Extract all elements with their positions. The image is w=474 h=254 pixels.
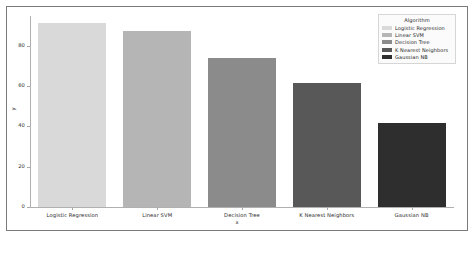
x-tick-label: Gaussian NB (369, 212, 454, 218)
legend-item: K Nearest Neighbors (382, 46, 452, 53)
legend-items: Logistic RegressionLinear SVMDecision Tr… (382, 25, 452, 61)
x-tick-mark (157, 207, 158, 210)
legend-item: Gaussian NB (382, 53, 452, 60)
legend-swatch (382, 55, 392, 59)
x-tick-label: K Nearest Neighbors (284, 212, 369, 218)
figure-canvas: 020406080 Logistic RegressionLinear SVMD… (0, 0, 474, 254)
legend-item-label: K Nearest Neighbors (395, 47, 448, 53)
legend-title: Algorithm (382, 17, 452, 23)
legend-item: Logistic Regression (382, 25, 452, 32)
bar (378, 123, 446, 207)
bar (293, 83, 361, 207)
y-tick-mark (27, 207, 30, 208)
x-tick-mark (72, 207, 73, 210)
bar (38, 23, 106, 207)
x-tick-mark (327, 207, 328, 210)
x-tick-label: Logistic Regression (30, 212, 115, 218)
legend-item-label: Linear SVM (395, 32, 424, 38)
x-tick-mark (242, 207, 243, 210)
x-tick-label: Decision Tree (200, 212, 285, 218)
bar (208, 58, 276, 207)
bar (123, 31, 191, 207)
legend-swatch (382, 40, 392, 44)
legend-swatch (382, 48, 392, 52)
legend-item-label: Logistic Regression (395, 25, 445, 31)
x-tick-mark (412, 207, 413, 210)
legend-item: Decision Tree (382, 39, 452, 46)
x-tick-label: Linear SVM (115, 212, 200, 218)
x-axis-title: x (0, 219, 474, 225)
legend-item-label: Decision Tree (395, 39, 430, 45)
legend-swatch (382, 33, 392, 37)
y-axis-title: y (10, 107, 16, 110)
legend-item: Linear SVM (382, 32, 452, 39)
legend-item-label: Gaussian NB (395, 54, 428, 60)
legend: Algorithm Logistic RegressionLinear SVMD… (378, 14, 456, 64)
legend-swatch (382, 26, 392, 30)
y-tick-0: 0 (0, 207, 30, 208)
